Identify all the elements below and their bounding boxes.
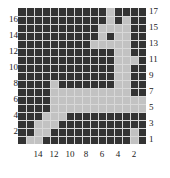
grid-cell	[90, 128, 98, 136]
grid-cell	[74, 128, 82, 136]
grid-cell	[18, 120, 26, 128]
grid-cell	[42, 24, 50, 32]
grid-cell	[114, 88, 122, 96]
grid-cell	[114, 104, 122, 112]
grid-cell	[106, 128, 114, 136]
grid-cell	[58, 128, 66, 136]
grid-cell	[90, 120, 98, 128]
y-axis-tick-label-right: 7	[149, 87, 167, 96]
grid-cell	[98, 96, 106, 104]
grid-cell	[42, 16, 50, 24]
grid-cell	[74, 56, 82, 64]
grid-cell	[34, 72, 42, 80]
grid-cell	[130, 32, 138, 40]
grid-cell	[130, 16, 138, 24]
grid-cell	[50, 96, 58, 104]
y-axis-tick-label-right: 9	[149, 71, 167, 80]
grid-cell	[98, 8, 106, 16]
y-axis-tick-label-right: 3	[149, 119, 167, 128]
grid-cell	[90, 48, 98, 56]
grid-cell	[34, 8, 42, 16]
grid-cell	[98, 16, 106, 24]
grid-cell	[50, 136, 58, 144]
grid-cell	[130, 120, 138, 128]
grid-cell	[66, 40, 74, 48]
grid-cell	[58, 88, 66, 96]
grid-cell	[58, 96, 66, 104]
grid-cell	[66, 120, 74, 128]
grid-cell	[42, 96, 50, 104]
grid-cell	[66, 128, 74, 136]
grid-cell	[138, 16, 146, 24]
grid-cell	[66, 24, 74, 32]
grid-cell	[98, 80, 106, 88]
grid-cell	[138, 96, 146, 104]
grid-cell	[138, 88, 146, 96]
grid-cell	[42, 56, 50, 64]
grid-cell	[42, 112, 50, 120]
grid-cell	[106, 64, 114, 72]
grid-cell	[58, 136, 66, 144]
grid-cell	[66, 64, 74, 72]
grid-cell	[122, 88, 130, 96]
grid-cell	[130, 72, 138, 80]
grid-cell	[50, 104, 58, 112]
grid-cell	[122, 120, 130, 128]
grid-cell	[122, 24, 130, 32]
grid-cell	[114, 56, 122, 64]
grid-cell	[50, 64, 58, 72]
grid-cell	[18, 104, 26, 112]
grid-cell	[18, 56, 26, 64]
heatmap-grid	[18, 8, 146, 144]
grid-cell	[50, 32, 58, 40]
x-axis-tick-label: 8	[79, 150, 93, 159]
grid-cell	[138, 40, 146, 48]
grid-cell	[130, 80, 138, 88]
grid-cell	[138, 64, 146, 72]
grid-cell	[74, 48, 82, 56]
grid-cell	[74, 32, 82, 40]
grid-cell	[42, 120, 50, 128]
grid-cell	[90, 96, 98, 104]
grid-cell	[26, 136, 34, 144]
grid-cell	[82, 112, 90, 120]
grid-cell	[98, 104, 106, 112]
grid-cell	[18, 128, 26, 136]
grid-cell	[98, 24, 106, 32]
grid-cell	[58, 32, 66, 40]
grid-cell	[26, 72, 34, 80]
grid-cell	[58, 56, 66, 64]
x-axis-tick-label: 6	[95, 150, 109, 159]
grid-cell	[58, 40, 66, 48]
grid-cell	[90, 56, 98, 64]
grid-cell	[82, 56, 90, 64]
x-axis-tick-label: 4	[111, 150, 125, 159]
grid-cell	[98, 136, 106, 144]
grid-cell	[106, 88, 114, 96]
grid-cell	[106, 32, 114, 40]
grid-cell	[82, 48, 90, 56]
grid-cell	[130, 24, 138, 32]
grid-cell	[18, 112, 26, 120]
grid-cell	[138, 136, 146, 144]
grid-cell	[34, 32, 42, 40]
grid-cell	[106, 48, 114, 56]
grid-cell	[114, 72, 122, 80]
grid-cell	[26, 128, 34, 136]
grid-cell	[50, 72, 58, 80]
grid-cell	[42, 88, 50, 96]
grid-cell	[82, 32, 90, 40]
x-axis-tick-label: 2	[127, 150, 141, 159]
grid-cell	[90, 24, 98, 32]
grid-cell	[58, 72, 66, 80]
grid-cell	[18, 96, 26, 104]
grid-cell	[122, 96, 130, 104]
grid-cell	[18, 32, 26, 40]
grid-cell	[74, 96, 82, 104]
grid-cell	[18, 48, 26, 56]
grid-cell	[58, 24, 66, 32]
grid-cell	[82, 24, 90, 32]
grid-cell	[18, 8, 26, 16]
grid-cell	[90, 88, 98, 96]
grid-cell	[122, 72, 130, 80]
